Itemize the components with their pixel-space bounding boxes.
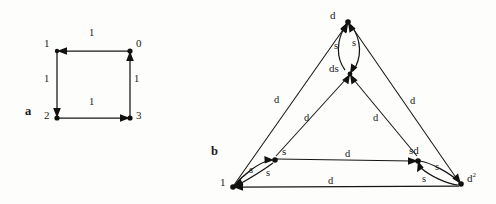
node-dot-b-right-d2 (458, 181, 464, 187)
node-label-b-right-superscript: 2 (473, 171, 477, 179)
edge-label-2-3: 1 (89, 97, 94, 108)
panel-a-graph (53, 47, 134, 122)
edge-d2-to-d-outer (352, 27, 459, 182)
edge-label-b-1-s-lower: s (249, 165, 253, 176)
edge-1-to-d-outer (234, 27, 345, 185)
node-label-b-left-1: 1 (220, 177, 226, 188)
node-dot-b-mid-ds (348, 72, 353, 77)
node-label-2: 2 (44, 110, 50, 121)
node-label-b-top-d: d (330, 10, 336, 21)
node-label-b-mid-ds: ds (329, 63, 339, 74)
panel-b-graph (230, 19, 464, 191)
edge-label-b-d2-d-outer: d (410, 96, 415, 107)
node-label-b-s: s (282, 146, 286, 157)
node-label-0: 0 (136, 38, 142, 49)
node-dot-1 (55, 49, 59, 53)
edge-label-b-s-1-upper: s (266, 168, 270, 179)
edge-label-1-2: 1 (44, 74, 49, 85)
node-dot-b-left-1 (230, 184, 236, 190)
edge-label-0-1: 1 (89, 28, 94, 39)
panel-label-a: a (25, 105, 31, 118)
edge-label-b-d2-sd-lower: s (422, 174, 426, 185)
node-dot-b-sd (415, 158, 421, 164)
node-dot-3 (127, 115, 132, 120)
edge-label-3-0: 1 (134, 74, 139, 85)
edge-label-b-d2-1-horizontal: d (328, 176, 333, 187)
panel-label-b: b (211, 145, 218, 158)
edge-d2-to-1-horizontal (239, 186, 459, 187)
node-dot-b-top-d (345, 19, 351, 25)
edge-label-b-ds-d-right: s (352, 38, 356, 49)
edge-s-to-sd-horizontal (276, 159, 412, 161)
node-label-1: 1 (44, 38, 50, 49)
edge-s-to-ds-inner (276, 79, 346, 156)
edge-label-b-sd-d2-upper: s (435, 162, 439, 173)
node-dot-0 (127, 48, 132, 53)
node-dot-2 (54, 115, 59, 120)
edge-label-b-1-d-outer: d (274, 95, 279, 106)
figure-canvas: a 0 1 2 3 1 1 1 1 b d ds 1 s sd d2 s s d… (0, 0, 496, 204)
edge-label-b-sd-ds-inner: d (373, 113, 378, 124)
edge-label-b-s-ds-inner: d (304, 113, 309, 124)
node-label-b-sd: sd (409, 145, 419, 156)
node-dot-b-s (272, 157, 278, 163)
node-label-3: 3 (136, 110, 142, 121)
edge-label-b-s-sd-horizontal: d (345, 149, 350, 160)
edge-sd-to-ds-inner (354, 80, 417, 156)
edge-label-b-d-ds-left: s (334, 41, 338, 52)
node-label-b-right-d2: d2 (467, 172, 476, 184)
